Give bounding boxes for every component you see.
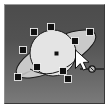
drawing-canvas[interactable]: [4, 4, 105, 104]
screenshot-root: Vector Shape Editor Canvas: [0, 0, 110, 112]
